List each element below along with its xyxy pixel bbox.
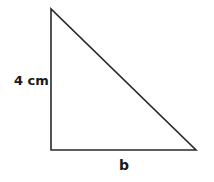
- base-label: b: [119, 157, 129, 173]
- right-triangle: [51, 9, 196, 150]
- diagram-canvas: 4 cm b: [0, 0, 214, 182]
- triangle-figure: 4 cm b: [0, 0, 214, 182]
- height-label: 4 cm: [14, 73, 49, 88]
